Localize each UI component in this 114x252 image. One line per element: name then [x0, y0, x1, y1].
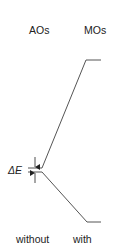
mo-diagram-canvas [0, 0, 114, 252]
aos-column-header: AOs [29, 24, 49, 36]
delta-e-label: ΔE [8, 164, 22, 176]
mos-column-header: MOs [84, 24, 106, 36]
with-label: with [73, 233, 92, 245]
without-label: without [16, 233, 49, 245]
lower-connector-line [42, 172, 87, 222]
upper-connector-line [42, 60, 86, 168]
